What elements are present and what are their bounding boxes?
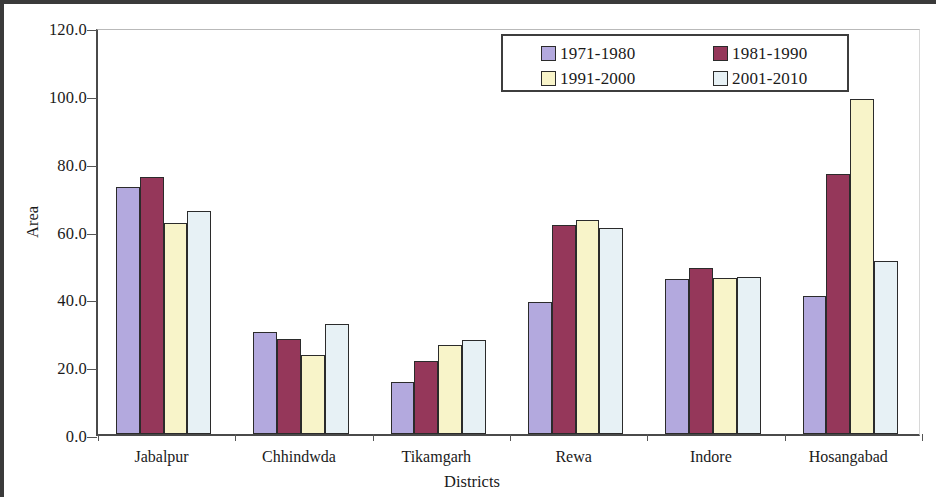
y-axis-tick-label: 20.0 — [57, 359, 87, 379]
bar[interactable] — [325, 324, 349, 434]
legend-item[interactable]: 2001-2010 — [675, 69, 847, 89]
y-axis-tick-label: 40.0 — [57, 291, 87, 311]
y-axis-tick — [87, 30, 97, 31]
bar[interactable] — [164, 223, 188, 434]
bar[interactable] — [528, 302, 552, 434]
x-axis-tick — [235, 434, 236, 441]
bar[interactable] — [391, 382, 415, 434]
y-axis-tick-label: 80.0 — [57, 156, 87, 176]
x-axis-category-label: Jabalpur — [134, 448, 188, 466]
bar[interactable] — [552, 225, 576, 434]
legend-swatch-icon — [713, 71, 728, 86]
bar-group — [391, 30, 486, 434]
legend-item[interactable]: 1991-2000 — [503, 69, 675, 89]
legend-item[interactable]: 1981-1990 — [675, 44, 847, 64]
chart-legend: 1971-19801981-19901991-20002001-2010 — [501, 34, 849, 92]
bar[interactable] — [116, 187, 140, 434]
legend-swatch-icon — [541, 71, 556, 86]
y-axis-tick — [87, 301, 97, 302]
y-axis-tick-label: 60.0 — [57, 224, 87, 244]
bar[interactable] — [713, 278, 737, 434]
bar[interactable] — [277, 339, 301, 434]
bar[interactable] — [438, 345, 462, 434]
bar[interactable] — [803, 296, 827, 434]
legend-label: 1971-1980 — [560, 44, 635, 64]
y-axis-tick-label: 100.0 — [49, 88, 87, 108]
y-axis-tick — [87, 166, 97, 167]
legend-swatch-icon — [541, 46, 556, 61]
legend-label: 2001-2010 — [732, 69, 807, 89]
bar[interactable] — [187, 211, 211, 434]
legend-item[interactable]: 1971-1980 — [503, 44, 675, 64]
bar[interactable] — [874, 261, 898, 434]
y-axis-tick — [87, 234, 97, 235]
bar[interactable] — [253, 332, 277, 434]
bar[interactable] — [826, 174, 850, 434]
x-axis-category-label: Rewa — [555, 448, 591, 466]
x-axis-category-label: Hosangabad — [809, 448, 888, 466]
bar[interactable] — [414, 361, 438, 434]
y-axis-title: Area — [23, 206, 43, 238]
bar[interactable] — [301, 355, 325, 434]
legend-row: 1971-19801981-1990 — [503, 41, 847, 66]
y-axis-tick — [87, 437, 97, 438]
x-axis-tick — [922, 434, 923, 441]
bar[interactable] — [850, 99, 874, 434]
x-axis-title: Districts — [4, 472, 936, 492]
x-axis-tick — [647, 434, 648, 441]
y-axis-tick — [87, 369, 97, 370]
y-axis-tick-label: 0.0 — [66, 427, 87, 447]
legend-label: 1981-1990 — [732, 44, 807, 64]
bar-group — [116, 30, 211, 434]
x-axis-tick — [98, 434, 99, 441]
chart-frame: Area 0.020.040.060.080.0100.0120.0 Jabal… — [0, 0, 936, 497]
legend-swatch-icon — [713, 46, 728, 61]
bar[interactable] — [462, 340, 486, 434]
legend-row: 1991-20002001-2010 — [503, 66, 847, 91]
legend-label: 1991-2000 — [560, 69, 635, 89]
y-axis-tick — [87, 98, 97, 99]
bar[interactable] — [576, 220, 600, 434]
x-axis-tick — [510, 434, 511, 441]
x-axis-category-label: Tikamgarh — [401, 448, 471, 466]
bar-group — [253, 30, 348, 434]
bar[interactable] — [599, 228, 623, 434]
x-axis-category-label: Chhindwda — [262, 448, 336, 466]
x-axis-tick — [373, 434, 374, 441]
bar[interactable] — [689, 268, 713, 434]
bar[interactable] — [140, 177, 164, 434]
bar[interactable] — [665, 279, 689, 434]
y-axis-tick-label: 120.0 — [49, 20, 87, 40]
x-axis-tick — [785, 434, 786, 441]
x-axis-category-label: Indore — [690, 448, 732, 466]
bar[interactable] — [737, 277, 761, 434]
